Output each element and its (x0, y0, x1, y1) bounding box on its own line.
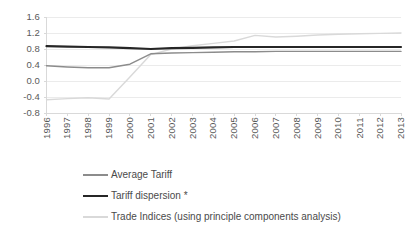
x-axis-tick-label-wrap: 2013 (383, 117, 415, 135)
legend-swatch-tariff-dispersion (83, 190, 108, 202)
legend-swatch-average-tariff (83, 169, 108, 181)
x-axis-tick-label: 2013 (396, 117, 406, 139)
x-axis-tick-labels: 1996199719981999200020012002200320042005… (0, 113, 415, 165)
legend-item-average-tariff: Average Tariff (83, 166, 172, 184)
y-axis-tick-label: 1.6 (0, 12, 40, 22)
y-axis-tick-label: -0.4 (0, 92, 40, 102)
chart-legend: Average Tariff Tariff dispersion * Trade… (0, 166, 415, 232)
legend-label-trade-indices: Trade Indices (using principle component… (111, 211, 341, 223)
y-axis-tick-label: 1.2 (0, 28, 40, 38)
legend-label-tariff-dispersion: Tariff dispersion * (111, 190, 188, 202)
legend-label-average-tariff: Average Tariff (111, 169, 172, 181)
y-axis-tick-label: 0.8 (0, 44, 40, 54)
legend-swatch-trade-indices (83, 211, 108, 223)
legend-item-tariff-dispersion: Tariff dispersion * (83, 187, 188, 205)
line-chart: 1.61.20.80.40.0-0.4-0.8 1996199719981999… (0, 0, 415, 232)
y-axis-tick-label: 0.0 (0, 76, 40, 86)
y-axis-tick-label: 0.4 (0, 60, 40, 70)
legend-item-trade-indices: Trade Indices (using principle component… (83, 208, 341, 226)
series-line (47, 33, 402, 100)
